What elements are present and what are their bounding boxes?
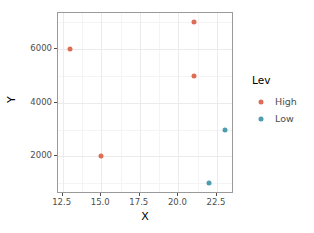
legend-key — [252, 110, 269, 127]
x-axis-title: X — [57, 210, 233, 223]
gridline-major-horizontal — [58, 103, 232, 104]
plot-panel — [57, 12, 233, 193]
x-tick-label: 22.5 — [207, 197, 226, 207]
y-tick-label: 4000 — [30, 97, 52, 107]
x-tick-mark — [100, 193, 101, 196]
gridline-major-horizontal — [58, 156, 232, 157]
legend-label: High — [275, 96, 297, 107]
legend-swatch-icon — [258, 116, 263, 121]
legend-swatch-icon — [258, 99, 263, 104]
gridline-minor-horizontal — [58, 130, 232, 131]
legend-key — [252, 93, 269, 110]
x-tick-label: 15.0 — [91, 197, 110, 207]
x-tick-mark — [139, 193, 140, 196]
gridline-minor-horizontal — [58, 22, 232, 23]
x-tick-mark — [62, 193, 63, 196]
gridline-minor-horizontal — [58, 76, 232, 77]
data-point — [191, 20, 196, 25]
x-tick-mark — [216, 193, 217, 196]
y-axis-title: Y — [5, 80, 18, 120]
y-tick-mark — [54, 155, 57, 156]
gridline-major-horizontal — [58, 49, 232, 50]
legend: Lev HighLow — [252, 74, 297, 127]
x-tick-label: 12.5 — [52, 197, 71, 207]
y-tick-mark — [54, 102, 57, 103]
data-point — [207, 181, 212, 186]
y-tick-label: 2000 — [30, 150, 52, 160]
y-tick-mark — [54, 48, 57, 49]
legend-entries: HighLow — [252, 93, 297, 127]
legend-item: High — [252, 93, 297, 110]
legend-item: Low — [252, 110, 297, 127]
x-tick-mark — [177, 193, 178, 196]
legend-label: Low — [275, 113, 294, 124]
data-point — [99, 154, 104, 159]
x-tick-label: 20.0 — [168, 197, 187, 207]
scatter-plot-figure: 12.515.017.520.022.5200040006000 X Y Lev… — [0, 0, 314, 233]
x-tick-label: 17.5 — [129, 197, 148, 207]
y-tick-label: 6000 — [30, 43, 52, 53]
data-point — [68, 47, 73, 52]
data-point — [222, 127, 227, 132]
data-point — [191, 74, 196, 79]
legend-title: Lev — [252, 74, 297, 86]
